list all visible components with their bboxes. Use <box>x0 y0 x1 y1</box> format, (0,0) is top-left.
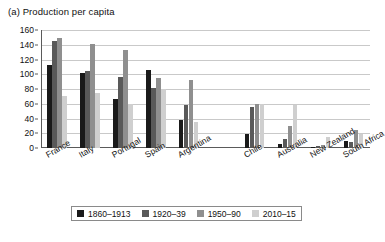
y-tick-label: 100 <box>20 69 34 79</box>
bar <box>156 78 160 148</box>
bar <box>179 120 183 148</box>
bar <box>184 105 188 149</box>
bar <box>90 44 94 148</box>
legend-swatch-icon <box>252 210 259 217</box>
legend-label: 1860–1913 <box>88 209 131 219</box>
legend-label: 1950–90 <box>208 209 241 219</box>
y-tick-mark <box>35 30 38 31</box>
bar <box>146 70 150 148</box>
y-tick-mark <box>35 133 38 134</box>
bar <box>95 93 99 148</box>
bar <box>123 50 127 148</box>
bar <box>80 73 84 148</box>
y-tick-mark <box>35 89 38 90</box>
legend-swatch-icon <box>77 210 84 217</box>
bars-layer <box>41 30 370 148</box>
y-tick-mark <box>35 118 38 119</box>
y-tick-label: 160 <box>20 25 34 35</box>
y-tick-label: 20 <box>25 128 34 138</box>
y-tick-mark <box>35 74 38 75</box>
y-tick-label: 40 <box>25 114 34 124</box>
bar <box>189 80 193 148</box>
y-tick-label: 140 <box>20 40 34 50</box>
bar <box>250 107 254 148</box>
y-tick-mark <box>35 59 38 60</box>
legend-swatch-icon <box>142 210 149 217</box>
bar <box>260 104 264 148</box>
bar <box>47 65 51 148</box>
bar <box>118 77 122 148</box>
legend-item: 1860–1913 <box>77 209 131 219</box>
chart-title: (a) Production per capita <box>8 6 115 17</box>
y-tick-label: 120 <box>20 55 34 65</box>
legend-swatch-icon <box>197 210 204 217</box>
y-tick-mark <box>35 44 38 45</box>
bar <box>151 88 155 148</box>
bar <box>85 71 89 148</box>
y-tick-label: 80 <box>25 84 34 94</box>
bar <box>113 99 117 148</box>
y-axis: 020406080100120140160 <box>0 30 38 148</box>
y-tick-mark <box>35 103 38 104</box>
legend-item: 1950–90 <box>197 209 241 219</box>
chart-legend: 1860–19131920–391950–902010–15 <box>71 206 302 221</box>
legend-label: 2010–15 <box>263 209 296 219</box>
bar <box>57 38 61 148</box>
legend-item: 2010–15 <box>252 209 296 219</box>
legend-label: 1920–39 <box>153 209 186 219</box>
bar <box>52 41 56 148</box>
y-tick-label: 60 <box>25 99 34 109</box>
legend-item: 1920–39 <box>142 209 186 219</box>
x-axis: FranceItalyPortugalSpainArgentinaChileAu… <box>0 148 379 198</box>
